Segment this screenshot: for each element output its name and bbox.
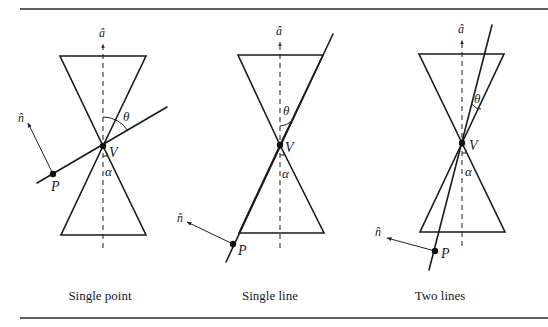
panel-caption: Two lines [415,288,466,303]
panel-single-line: âθαn̂VPSingle line [177,24,333,303]
normal-label: n̂ [177,211,183,225]
normal-arrow [187,222,233,244]
vertex-point [277,142,283,148]
point-p-label: P [50,179,60,194]
normal-label: n̂ [375,225,381,239]
line-through-vertex [429,25,492,270]
vertex-label: V [109,145,119,160]
vertex-point [459,140,465,146]
theta-label: θ [283,103,290,118]
point-p [50,171,56,177]
normal-label: n̂ [18,111,24,125]
vertex-label: V [285,140,295,155]
axis-label: â [276,24,282,38]
theta-label: θ [123,109,130,124]
alpha-label: α [282,166,290,181]
panel-caption: Single line [242,288,298,303]
panel-caption: Single point [68,288,132,303]
lower-cone [239,145,324,233]
point-p [230,241,236,247]
point-p-label: P [440,246,450,261]
normal-arrow [28,123,53,174]
point-p-label: P [237,243,247,258]
alpha-label: α [105,164,113,179]
panel-two-lines: âθαn̂VPTwo lines [375,22,505,303]
vertex-point [100,143,106,149]
panel-single-point: âθαn̂VPSingle point [18,26,167,303]
cone-diagram-figure: âθαn̂VPSingle pointâθαn̂VPSingle lineâθα… [0,0,548,327]
alpha-label: α [465,164,473,179]
theta-label: θ [474,91,481,106]
normal-arrow [387,238,435,251]
vertex-label: V [469,138,479,153]
axis-label: â [99,26,105,40]
point-p [432,248,438,254]
axis-label: â [458,22,464,36]
